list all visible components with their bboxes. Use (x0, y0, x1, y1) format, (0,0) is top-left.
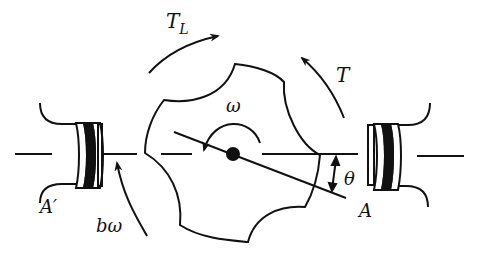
rotor-hub (226, 147, 240, 161)
coil-right-label: A (357, 200, 372, 221)
damping-label: bω (96, 215, 123, 236)
theta-label: θ (344, 168, 355, 189)
coil-left-label: A′ (38, 196, 57, 217)
motor-torque-label: T (336, 63, 351, 87)
load-torque-arrow (149, 36, 218, 73)
diagram-canvas: TL T ω θ A A′ bω (0, 0, 484, 254)
load-torque-label: TL (166, 9, 189, 37)
omega-label: ω (226, 95, 241, 116)
theta-arrow (329, 157, 339, 191)
